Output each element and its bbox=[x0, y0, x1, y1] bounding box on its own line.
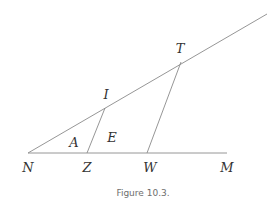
label-t: T bbox=[176, 41, 186, 56]
label-region-e: E bbox=[106, 130, 117, 145]
label-region-a: A bbox=[68, 135, 78, 150]
ray-n-i-t bbox=[28, 14, 267, 153]
label-n: N bbox=[21, 160, 34, 175]
label-i: I bbox=[102, 87, 109, 102]
segment-zi bbox=[87, 108, 105, 153]
figure-caption: Figure 10.3. bbox=[116, 188, 169, 198]
geometry-figure: N Z W M I T A E Figure 10.3. bbox=[0, 0, 276, 210]
label-z: Z bbox=[81, 160, 92, 175]
label-w: W bbox=[143, 160, 158, 175]
segment-wt bbox=[147, 62, 181, 153]
label-m: M bbox=[219, 160, 234, 175]
